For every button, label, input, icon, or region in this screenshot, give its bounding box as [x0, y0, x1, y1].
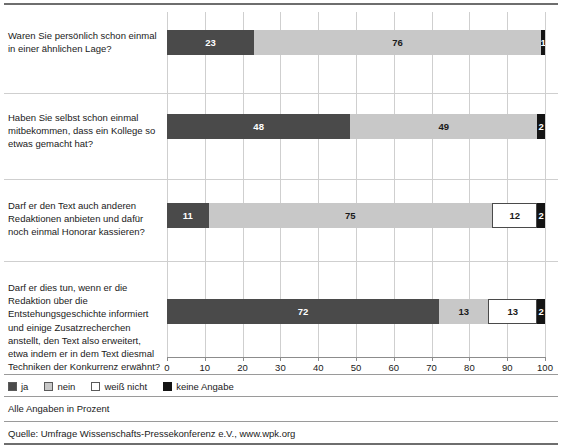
tick-label-10: 10 [200, 362, 211, 373]
chart-legend: janeinweiß nichtkeine Angabe [8, 379, 243, 393]
question-label: Darf er den Text auch anderen Redaktione… [8, 199, 163, 239]
legend-label: ja [21, 381, 28, 392]
tick-mark-0 [167, 357, 168, 361]
stacked-bar: 7213132 [167, 299, 545, 324]
bar-segment: 76 [254, 30, 541, 55]
bar-segment: 2 [537, 203, 545, 228]
bottom-border-rule [4, 443, 558, 445]
source-note: Quelle: Umfrage Wissenschafts-Pressekonf… [8, 428, 295, 439]
tick-mark-10 [205, 357, 206, 361]
tick-label-50: 50 [351, 362, 362, 373]
tick-label-0: 0 [164, 362, 169, 373]
bar-segment: 2 [537, 114, 545, 139]
legend-swatch-icon [8, 382, 17, 391]
stacked-bar: 1175122 [167, 203, 545, 228]
legend-label: weiß nicht [104, 381, 147, 392]
tick-mark-30 [280, 357, 281, 361]
tick-mark-100 [545, 357, 546, 361]
bar-segment: 49 [350, 114, 537, 139]
tick-mark-40 [318, 357, 319, 361]
question-label: Darf er dies tun, wenn er die Redaktion … [8, 281, 163, 373]
legend-label: nein [57, 381, 75, 392]
bar-segment: 48 [167, 114, 350, 139]
row-separator [4, 179, 558, 180]
top-border-rule [4, 3, 558, 5]
legend-label: keine Angabe [176, 381, 234, 392]
legend-item: ja [8, 381, 28, 392]
tick-mark-20 [243, 357, 244, 361]
gridline-100 [545, 12, 546, 357]
tick-mark-50 [356, 357, 357, 361]
question-label: Waren Sie persönlich schon einmal in ein… [8, 29, 163, 55]
bar-segment: 2 [537, 299, 545, 324]
bar-segment: 11 [167, 203, 209, 228]
legend-item: keine Angabe [163, 381, 234, 392]
legend-swatch-icon [163, 382, 172, 391]
tick-label-80: 80 [464, 362, 475, 373]
bar-segment: 72 [167, 299, 439, 324]
tick-label-100: 100 [537, 362, 553, 373]
stacked-bar: 23761 [167, 30, 545, 55]
tick-mark-70 [432, 357, 433, 361]
tick-label-40: 40 [313, 362, 324, 373]
legend-item: nein [44, 381, 75, 392]
tick-label-70: 70 [426, 362, 437, 373]
stacked-bar: 48492 [167, 114, 545, 139]
tick-label-90: 90 [502, 362, 513, 373]
units-note: Alle Angaben in Prozent [8, 403, 109, 414]
note-bottom-rule [4, 421, 558, 422]
question-label: Haben Sie selbst schon einmal mitbekomme… [8, 111, 163, 151]
bar-segment: 13 [488, 299, 537, 324]
bar-segment: 75 [209, 203, 493, 228]
bar-segment: 1 [541, 30, 545, 55]
legend-swatch-icon [91, 382, 100, 391]
row-separator [4, 93, 558, 94]
bar-segment: 12 [492, 203, 537, 228]
survey-chart-figure: Waren Sie persönlich schon einmal in ein… [0, 0, 562, 448]
tick-mark-90 [507, 357, 508, 361]
legend-bottom-rule [4, 396, 558, 397]
legend-item: weiß nicht [91, 381, 147, 392]
tick-label-20: 20 [237, 362, 248, 373]
legend-top-rule [4, 374, 558, 375]
tick-mark-60 [394, 357, 395, 361]
legend-swatch-icon [44, 382, 53, 391]
bar-segment: 13 [439, 299, 488, 324]
tick-label-30: 30 [275, 362, 286, 373]
bar-segment: 23 [167, 30, 254, 55]
row-separator [4, 261, 558, 262]
tick-mark-80 [469, 357, 470, 361]
tick-label-60: 60 [389, 362, 400, 373]
